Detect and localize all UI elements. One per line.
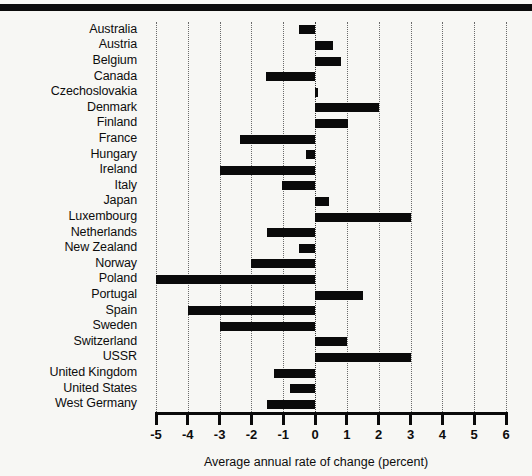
- axis-tick: [345, 412, 348, 425]
- category-label: Spain: [106, 304, 137, 317]
- gridline-neg2: [251, 22, 252, 412]
- bar: [306, 150, 316, 159]
- category-label: Norway: [95, 257, 137, 270]
- bar: [315, 213, 410, 222]
- category-label: Australia: [89, 23, 137, 36]
- bar: [156, 275, 315, 284]
- axis-tick-label: 3: [396, 427, 426, 442]
- bar: [315, 88, 318, 97]
- category-label: Netherlands: [71, 226, 137, 239]
- category-label: France: [99, 132, 137, 145]
- category-label: Czechoslovakia: [51, 85, 137, 98]
- category-label: Poland: [99, 272, 137, 285]
- bar: [315, 337, 347, 346]
- bar: [299, 244, 315, 253]
- axis-tick: [314, 412, 317, 425]
- category-label: West Germany: [55, 397, 137, 410]
- bar: [299, 25, 315, 34]
- bar: [267, 228, 315, 237]
- gridline-4: [442, 22, 443, 412]
- axis-tick: [409, 412, 412, 425]
- bar: [220, 166, 315, 175]
- bar: [315, 291, 363, 300]
- category-axis-labels: AustraliaAustriaBelgiumCanadaCzechoslova…: [0, 22, 146, 412]
- plot-area: [156, 22, 506, 412]
- axis-tick-label: -4: [173, 427, 203, 442]
- category-label: USSR: [103, 350, 137, 363]
- gridline-neg5: [156, 22, 157, 412]
- bar: [315, 119, 348, 128]
- bar: [315, 41, 333, 50]
- axis-tick: [441, 412, 444, 425]
- bar: [220, 322, 315, 331]
- bar: [315, 197, 329, 206]
- axis-tick-label: -3: [205, 427, 235, 442]
- axis-tick: [505, 412, 508, 425]
- category-label: Austria: [99, 38, 137, 51]
- axis-tick: [377, 412, 380, 425]
- axis-tick-label: 6: [491, 427, 521, 442]
- bar: [315, 353, 410, 362]
- axis-tick: [282, 412, 285, 425]
- category-label: United Kingdom: [49, 366, 137, 379]
- value-axis-line: [156, 412, 506, 415]
- gridline-6: [506, 22, 507, 412]
- category-label: Belgium: [93, 54, 137, 67]
- category-label: Switzerland: [73, 335, 137, 348]
- axis-tick-label: -1: [268, 427, 298, 442]
- gridline-neg4: [188, 22, 189, 412]
- axis-tick-label: -2: [236, 427, 266, 442]
- axis-tick: [186, 412, 189, 425]
- category-label: Japan: [103, 194, 137, 207]
- bar: [290, 384, 315, 393]
- gridline-5: [474, 22, 475, 412]
- scanned-page: AustraliaAustriaBelgiumCanadaCzechoslova…: [0, 0, 532, 476]
- category-label: Portugal: [91, 288, 137, 301]
- category-label: Canada: [94, 70, 137, 83]
- bar: [251, 259, 315, 268]
- category-label: Hungary: [90, 148, 137, 161]
- category-label: Denmark: [87, 101, 137, 114]
- axis-tick-label: 5: [459, 427, 489, 442]
- axis-tick: [473, 412, 476, 425]
- category-label: Sweden: [92, 319, 137, 332]
- bar: [282, 181, 315, 190]
- category-label: Finland: [97, 116, 137, 129]
- axis-tick-label: -5: [141, 427, 171, 442]
- axis-tick-label: 2: [364, 427, 394, 442]
- axis-tick: [250, 412, 253, 425]
- category-label: Luxembourg: [69, 210, 138, 223]
- bar: [240, 135, 315, 144]
- bar: [315, 57, 340, 66]
- category-label: United States: [63, 382, 137, 395]
- gridline-3: [411, 22, 412, 412]
- bar: [315, 103, 379, 112]
- category-label: Italy: [115, 179, 137, 192]
- axis-tick: [218, 412, 221, 425]
- bar: [267, 400, 315, 409]
- axis-tick-label: 4: [427, 427, 457, 442]
- gridline-neg3: [220, 22, 221, 412]
- category-label: New Zealand: [64, 241, 137, 254]
- axis-tick-label: 1: [332, 427, 362, 442]
- bar: [188, 306, 315, 315]
- axis-tick-label: 0: [300, 427, 330, 442]
- page-top-rule: [0, 4, 532, 11]
- category-label: Ireland: [99, 163, 137, 176]
- axis-title: Average annual rate of change (percent): [0, 455, 532, 469]
- bar: [266, 72, 315, 81]
- axis-tick: [155, 412, 158, 425]
- bar: [274, 369, 315, 378]
